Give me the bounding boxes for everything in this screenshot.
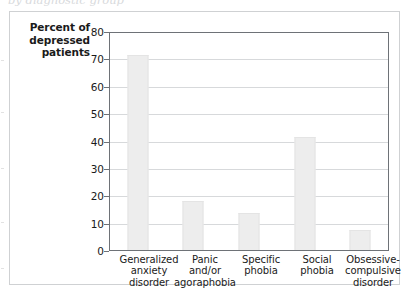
bar-slot xyxy=(332,33,388,250)
y-tick-label-60: 60 xyxy=(78,82,104,92)
scan-artifact xyxy=(1,268,4,269)
bar-slot xyxy=(166,33,222,250)
bar-slot xyxy=(277,33,333,250)
y-tick-label-10: 10 xyxy=(78,219,104,229)
y-tick-label-20: 20 xyxy=(78,191,104,201)
y-tick-label-0: 0 xyxy=(78,246,104,256)
plot-area xyxy=(109,32,389,251)
bar-slot xyxy=(221,33,277,250)
bar-chart: Percent of depressed patients 80 70 60 5… xyxy=(10,12,399,284)
scan-artifact xyxy=(1,222,4,223)
top-cut-caption: by diagnostic group xyxy=(8,0,268,6)
x-label-line: agoraphobia xyxy=(161,277,249,288)
y-tick-label-50: 50 xyxy=(78,109,104,119)
scan-artifact xyxy=(1,60,4,61)
scan-artifact xyxy=(1,112,4,113)
bar-generalized-anxiety-disorder[interactable] xyxy=(127,55,148,250)
scan-artifact xyxy=(1,168,4,169)
y-tick-label-80: 80 xyxy=(78,27,104,37)
bar-social-phobia[interactable] xyxy=(294,137,315,250)
bar-series xyxy=(110,33,388,250)
x-label-line: disorder xyxy=(329,277,415,288)
y-tick-label-30: 30 xyxy=(78,164,104,174)
figure-frame: Percent of depressed patients 80 70 60 5… xyxy=(9,11,400,285)
y-tick-label-40: 40 xyxy=(78,137,104,147)
bar-panic-and-or-agoraphobia[interactable] xyxy=(183,201,204,250)
bar-obsessive-compulsive-disorder[interactable] xyxy=(350,230,371,250)
x-label-line: Obsessive- xyxy=(329,254,415,265)
y-tick-mark-0 xyxy=(104,251,109,252)
bar-slot xyxy=(110,33,166,250)
bar-specific-phobia[interactable] xyxy=(238,213,259,250)
y-tick-label-70: 70 xyxy=(78,54,104,64)
x-label-line: compulsive xyxy=(329,265,415,276)
x-label-obsessive-compulsive-disorder: Obsessive- compulsive disorder xyxy=(329,254,415,288)
